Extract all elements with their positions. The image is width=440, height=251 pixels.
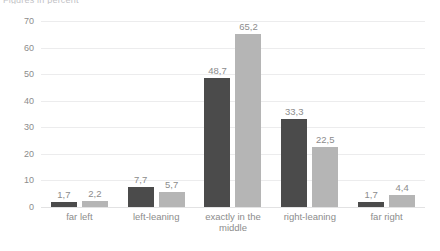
chart-title: Figures in percent [3, 0, 79, 4]
bar-column: 1,7 [358, 21, 384, 207]
bar-column: 48,7 [204, 21, 230, 207]
bar[interactable] [51, 202, 77, 207]
bar-pair: 48,765,2 [195, 21, 272, 207]
bar-column: 65,2 [235, 21, 261, 207]
bar-column: 4,4 [389, 21, 415, 207]
x-axis-label: far right [348, 211, 425, 233]
bar-value-label: 2,2 [75, 188, 115, 199]
y-axis-tick: 40 [24, 96, 34, 106]
bar-value-label: 5,7 [152, 179, 192, 190]
y-axis-tick: 70 [24, 16, 34, 26]
bar-pair: 1,72,2 [41, 21, 118, 207]
bar-column: 7,7 [128, 21, 154, 207]
bar[interactable] [358, 202, 384, 207]
bar[interactable] [235, 34, 261, 207]
bar-value-label: 48,7 [197, 65, 237, 76]
bar-chart: Figures in percent 010203040506070 1,72,… [0, 0, 440, 251]
bar-column: 22,5 [312, 21, 338, 207]
x-axis-category-labels: far leftleft-leaningexactly in themiddle… [41, 211, 425, 233]
bar-group: 1,74,4 [348, 21, 425, 207]
bar-group: 7,75,7 [118, 21, 195, 207]
bar-column: 33,3 [281, 21, 307, 207]
y-axis-tick: 10 [24, 175, 34, 185]
y-axis-tick: 60 [24, 43, 34, 53]
y-axis-tick-labels: 010203040506070 [0, 21, 34, 207]
bar-group: 33,322,5 [271, 21, 348, 207]
bar[interactable] [312, 147, 338, 207]
bar-pair: 1,74,4 [348, 21, 425, 207]
bar-value-label: 4,4 [382, 182, 422, 193]
bar[interactable] [281, 119, 307, 207]
x-axis-label: exactly in themiddle [195, 211, 272, 233]
bar[interactable] [389, 195, 415, 207]
x-axis-label: right-leaning [271, 211, 348, 233]
bar-group: 48,765,2 [195, 21, 272, 207]
bar-value-label: 65,2 [228, 21, 268, 32]
bar-column: 5,7 [159, 21, 185, 207]
bar-value-label: 22,5 [305, 134, 345, 145]
gridline [41, 207, 425, 208]
bar-group: 1,72,2 [41, 21, 118, 207]
y-axis-tick: 50 [24, 69, 34, 79]
bar-column: 1,7 [51, 21, 77, 207]
bar[interactable] [128, 187, 154, 207]
y-axis-tick: 30 [24, 122, 34, 132]
bar[interactable] [159, 192, 185, 207]
x-axis-label: far left [41, 211, 118, 233]
bar[interactable] [82, 201, 108, 207]
bar-value-label: 33,3 [274, 106, 314, 117]
y-axis-tick: 0 [29, 202, 34, 212]
x-axis-label: left-leaning [118, 211, 195, 233]
bar[interactable] [204, 78, 230, 207]
bar-column: 2,2 [82, 21, 108, 207]
bar-pair: 33,322,5 [271, 21, 348, 207]
bar-groups: 1,72,27,75,748,765,233,322,51,74,4 [41, 21, 425, 207]
y-axis-tick: 20 [24, 149, 34, 159]
bar-pair: 7,75,7 [118, 21, 195, 207]
